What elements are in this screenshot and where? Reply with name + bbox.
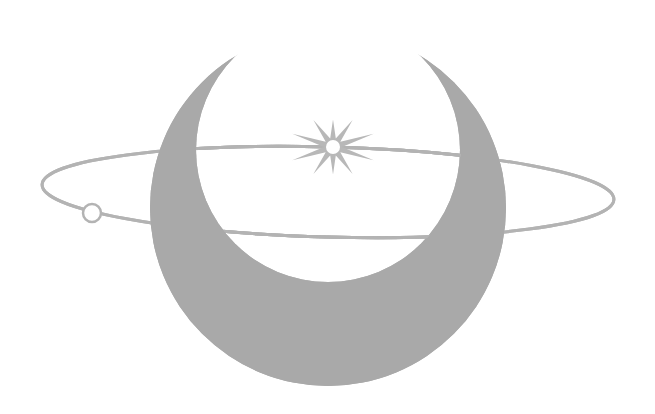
crescent-orbit-logo <box>0 0 655 414</box>
crescent-body-cover <box>150 30 506 386</box>
ring-bead-icon <box>83 204 101 222</box>
